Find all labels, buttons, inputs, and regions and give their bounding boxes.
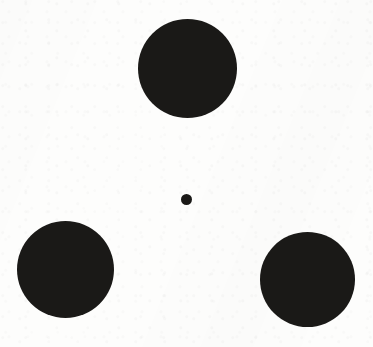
- bottom-left-large-circle: [17, 221, 114, 318]
- center-small-dot: [181, 194, 192, 205]
- top-large-circle: [138, 19, 237, 118]
- figure-canvas: [0, 0, 373, 347]
- bottom-right-large-circle: [260, 232, 355, 327]
